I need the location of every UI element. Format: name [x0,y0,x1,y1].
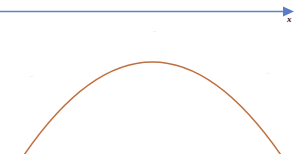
faint-mark-left: – [30,73,33,79]
faint-mark-top: – [153,28,156,34]
math-diagram: x – – – [0,0,300,154]
parabola-curve [22,62,283,154]
diagram-canvas [0,0,300,154]
x-axis-group [0,7,294,17]
x-axis-label: x [287,15,292,24]
faint-mark-right: – [266,70,269,76]
